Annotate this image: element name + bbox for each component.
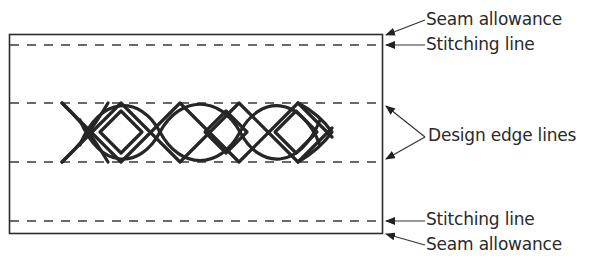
leader-arrows (386, 20, 425, 245)
arrow-design-edge-bottom (386, 137, 425, 159)
label-stitching-line-bottom: Stitching line (426, 211, 535, 228)
arrow-design-edge-top (386, 106, 425, 137)
seam-diagram: Seam allowance Stitching line Design edg… (0, 0, 603, 269)
arrow-seam-allowance-bottom (386, 234, 425, 245)
label-design-edge-lines: Design edge lines (428, 127, 576, 144)
label-seam-allowance-bottom: Seam allowance (426, 236, 562, 253)
label-stitching-line-top: Stitching line (426, 36, 535, 53)
label-seam-allowance-top: Seam allowance (426, 11, 562, 28)
braid-pattern (62, 103, 332, 162)
arrow-seam-allowance-top (386, 20, 425, 35)
